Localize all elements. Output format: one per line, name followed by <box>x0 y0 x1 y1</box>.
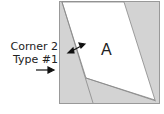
annotation-line-2: Type #1 <box>6 53 58 66</box>
right-arrow-icon <box>36 67 54 73</box>
piece-label-a: A <box>101 41 112 58</box>
annotation-line-1: Corner 2 <box>6 40 58 53</box>
annotation-corner: Corner 2 Type #1 <box>6 40 58 66</box>
